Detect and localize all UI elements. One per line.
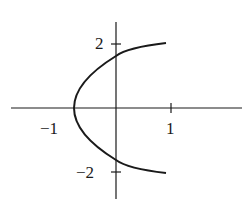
- graph-canvas: [0, 0, 244, 206]
- y-tick-label-neg2: −2: [76, 164, 94, 181]
- x-tick-label-neg1: −1: [40, 120, 58, 137]
- y-tick-label-2: 2: [95, 35, 104, 52]
- x-tick-label-1: 1: [166, 120, 175, 137]
